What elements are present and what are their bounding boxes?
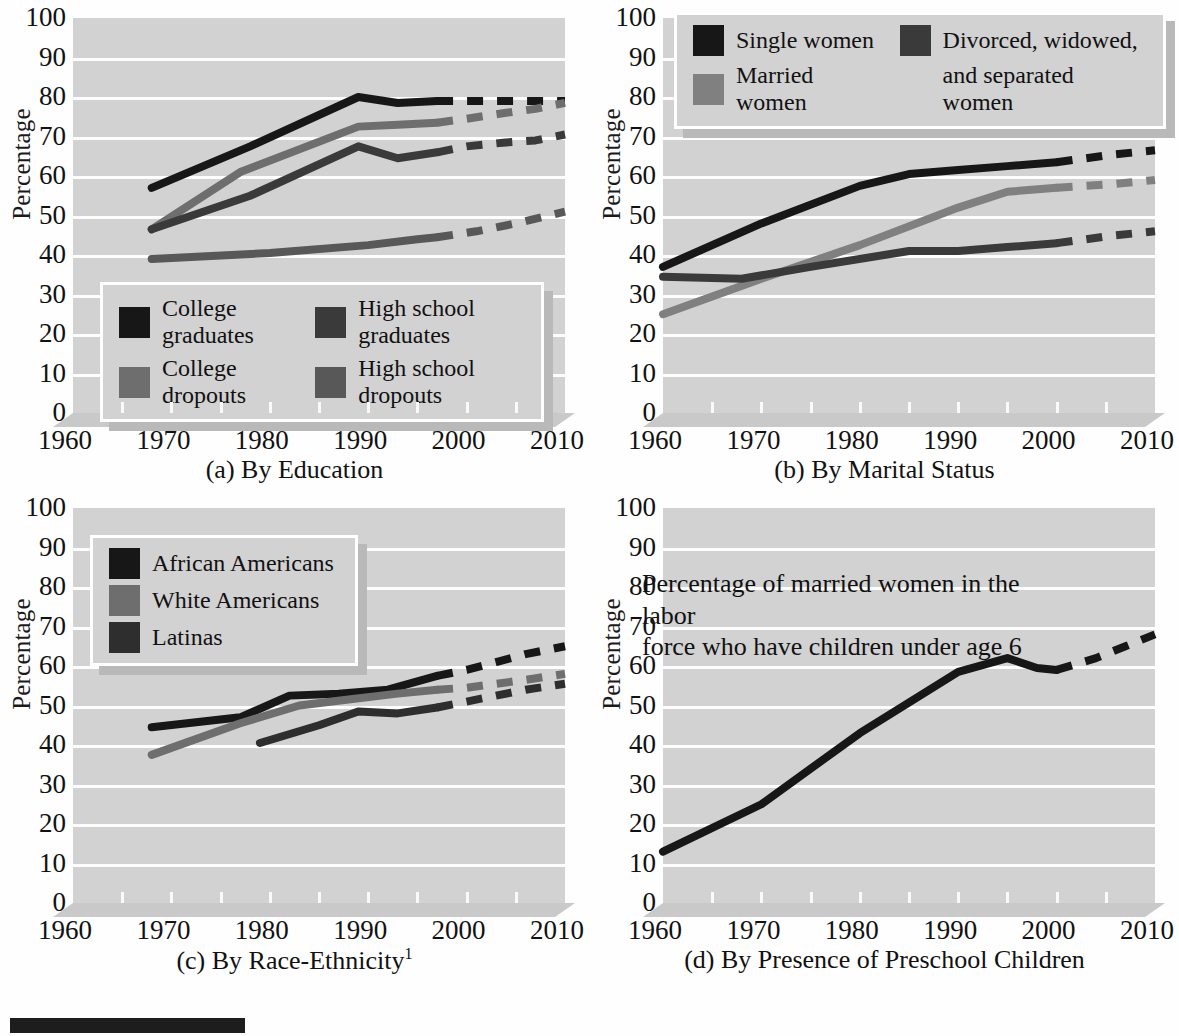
x-tickmark-1985 xyxy=(318,402,321,413)
legend-swatch-single-women xyxy=(687,22,730,59)
gridline-50 xyxy=(663,706,1155,709)
x-tick-2010: 2010 xyxy=(512,917,602,944)
legend-swatch-divorced-widowed-separated xyxy=(894,22,937,59)
gridline-50 xyxy=(73,706,565,709)
panel-b-by-marital-status: Percentage 1009080706050403020100 196019… xyxy=(590,0,1179,490)
x-tickmark-1970 xyxy=(170,402,173,413)
legend-swatch-spacer xyxy=(894,59,937,119)
gridline-50 xyxy=(663,216,1155,219)
axis-floor-b xyxy=(643,413,1165,427)
x-tick-1970: 1970 xyxy=(708,427,798,454)
x-tick-1970: 1970 xyxy=(118,427,208,454)
gridline-30 xyxy=(663,295,1155,298)
y-tick-40: 40 xyxy=(629,241,656,268)
x-tickmark-2005 xyxy=(1105,402,1108,413)
gridline-30 xyxy=(663,785,1155,788)
gridline-20 xyxy=(663,334,1155,337)
legend-swatch-african-americans xyxy=(103,545,146,582)
x-tick-1980: 1980 xyxy=(217,917,307,944)
x-tickmark-1980 xyxy=(859,402,862,413)
x-tickmark-1995 xyxy=(1006,402,1009,413)
legend-label-college-dropouts: College dropouts xyxy=(156,352,309,412)
y-tick-90: 90 xyxy=(629,534,656,561)
gridline-10 xyxy=(663,864,1155,867)
plot-annotation-d: Percentage of married women in the labor… xyxy=(642,568,1062,663)
y-tick-100: 100 xyxy=(616,494,657,521)
legend-swatch-high-school-dropouts xyxy=(309,352,352,412)
x-tick-2010: 2010 xyxy=(1102,427,1179,454)
x-tickmark-2005 xyxy=(515,892,518,903)
x-tickmark-1990 xyxy=(957,402,960,413)
axis-floor-c xyxy=(53,903,575,917)
y-tick-30: 30 xyxy=(39,771,66,798)
x-tickmark-1985 xyxy=(318,892,321,903)
x-tick-1960: 1960 xyxy=(610,917,700,944)
x-tick-2000: 2000 xyxy=(1004,427,1094,454)
x-tickmark-1975 xyxy=(810,892,813,903)
y-tick-90: 90 xyxy=(629,44,656,71)
gridline-20 xyxy=(73,824,565,827)
legend-label-high-school-dropouts: High school dropouts xyxy=(352,352,531,412)
gridline-40 xyxy=(663,745,1155,748)
y-tick-10: 10 xyxy=(39,850,66,877)
y-tick-80: 80 xyxy=(629,83,656,110)
x-tickmark-1975 xyxy=(810,402,813,413)
x-tickmark-1965 xyxy=(711,892,714,903)
y-tick-100: 100 xyxy=(26,4,67,31)
legend-swatch-high-school-graduates xyxy=(309,292,352,352)
y-tick-60: 60 xyxy=(39,162,66,189)
gridline-30 xyxy=(73,785,565,788)
gridline-40 xyxy=(663,255,1155,258)
legend-label-single-women: Single women xyxy=(730,22,894,59)
y-tick-50: 50 xyxy=(39,202,66,229)
gridline-20 xyxy=(663,824,1155,827)
gridline-70 xyxy=(663,137,1155,140)
x-tickmark-1995 xyxy=(1006,892,1009,903)
caption-b: (b) By Marital Status xyxy=(590,455,1179,485)
x-tickmark-1980 xyxy=(859,892,862,903)
x-tickmark-1975 xyxy=(220,402,223,413)
legend-swatch-college-dropouts xyxy=(113,352,156,412)
gridline-90 xyxy=(663,548,1155,551)
x-tick-1960: 1960 xyxy=(20,427,110,454)
gridline-90 xyxy=(73,58,565,61)
y-tick-70: 70 xyxy=(39,613,66,640)
gridline-40 xyxy=(73,255,565,258)
x-tickmark-1990 xyxy=(957,892,960,903)
caption-d: (d) By Presence of Preschool Children xyxy=(590,945,1179,975)
legend-label-high-school-graduates: High school graduates xyxy=(352,292,531,352)
caption-c: (c) By Race-Ethnicity1 xyxy=(0,945,589,976)
x-tickmark-1990 xyxy=(367,402,370,413)
panel-a-by-education: Percentage 1009080706050403020100 196019… xyxy=(0,0,589,490)
y-tick-20: 20 xyxy=(39,320,66,347)
x-tick-1990: 1990 xyxy=(905,427,995,454)
caption-a: (a) By Education xyxy=(0,455,589,485)
y-tick-60: 60 xyxy=(629,162,656,189)
x-tick-2000: 2000 xyxy=(1004,917,1094,944)
x-tickmark-1990 xyxy=(367,892,370,903)
legend-label-african-americans: African Americans xyxy=(146,545,340,582)
y-tick-100: 100 xyxy=(616,4,657,31)
gridline-10 xyxy=(663,374,1155,377)
y-tick-80: 80 xyxy=(39,83,66,110)
y-tick-70: 70 xyxy=(39,123,66,150)
gridline-60 xyxy=(73,176,565,179)
caption-c-footnote-marker: 1 xyxy=(405,945,413,962)
legend-label-college-graduates: College graduates xyxy=(156,292,309,352)
legend-label-white-americans: White Americans xyxy=(146,582,340,619)
legend-c: African Americans White Americans Latina… xyxy=(90,535,358,666)
x-tick-2010: 2010 xyxy=(512,427,602,454)
x-tickmark-2000 xyxy=(1056,402,1059,413)
legend-b: Single women Divorced, widowed, Married … xyxy=(674,12,1166,129)
x-tickmark-1995 xyxy=(416,402,419,413)
y-axis-ticks-d: 1009080706050403020100 xyxy=(590,490,660,910)
gridline-70 xyxy=(73,137,565,140)
x-tick-1980: 1980 xyxy=(807,917,897,944)
y-axis-ticks-c: 1009080706050403020100 xyxy=(0,490,70,910)
legend-label-married-women: Married women xyxy=(730,59,894,119)
x-tickmark-2000 xyxy=(1056,892,1059,903)
y-tick-90: 90 xyxy=(39,534,66,561)
y-tick-50: 50 xyxy=(629,202,656,229)
x-tick-1990: 1990 xyxy=(315,917,405,944)
y-tick-20: 20 xyxy=(39,810,66,837)
